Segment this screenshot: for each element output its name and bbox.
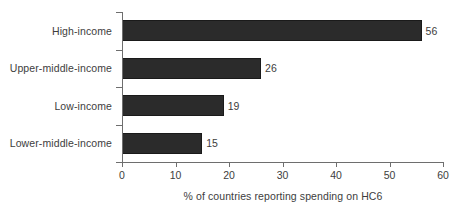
- bar-value-label: 15: [202, 137, 218, 149]
- x-axis-tick: [122, 162, 123, 167]
- category-label: Lower-middle-income: [0, 137, 112, 149]
- x-axis-tick-label: 60: [437, 169, 449, 181]
- x-axis-tick: [443, 162, 444, 167]
- bar: [122, 20, 422, 41]
- x-axis-tick-label: 20: [223, 169, 235, 181]
- bar-chart: High-incomeUpper-middle-incomeLow-income…: [0, 0, 467, 215]
- category-axis-labels: High-incomeUpper-middle-incomeLow-income…: [0, 0, 112, 215]
- y-axis-tick: [116, 50, 122, 51]
- x-axis-tick: [176, 162, 177, 167]
- x-axis-tick: [283, 162, 284, 167]
- y-axis-line: [122, 12, 123, 163]
- bar-value-label: 56: [422, 25, 438, 37]
- x-axis-tick: [336, 162, 337, 167]
- x-axis-tick-label: 40: [330, 169, 342, 181]
- y-axis-tick: [116, 125, 122, 126]
- bar: [122, 58, 261, 79]
- plot-area: 56261915: [122, 12, 443, 162]
- bar-value-label: 19: [224, 100, 240, 112]
- x-axis-tick-label: 0: [119, 169, 125, 181]
- bar: [122, 133, 202, 154]
- x-axis-tick: [229, 162, 230, 167]
- x-axis-title: % of countries reporting spending on HC6: [122, 190, 444, 202]
- category-label: Low-income: [0, 100, 112, 112]
- bar: [122, 95, 224, 116]
- x-axis-tick-label: 10: [170, 169, 182, 181]
- x-axis-tick: [390, 162, 391, 167]
- category-label: Upper-middle-income: [0, 62, 112, 74]
- y-axis-tick: [116, 12, 122, 13]
- x-axis-tick-label: 50: [384, 169, 396, 181]
- category-label: High-income: [0, 25, 112, 37]
- bar-value-label: 26: [261, 62, 277, 74]
- x-axis-tick-label: 30: [277, 169, 289, 181]
- y-axis-tick: [116, 87, 122, 88]
